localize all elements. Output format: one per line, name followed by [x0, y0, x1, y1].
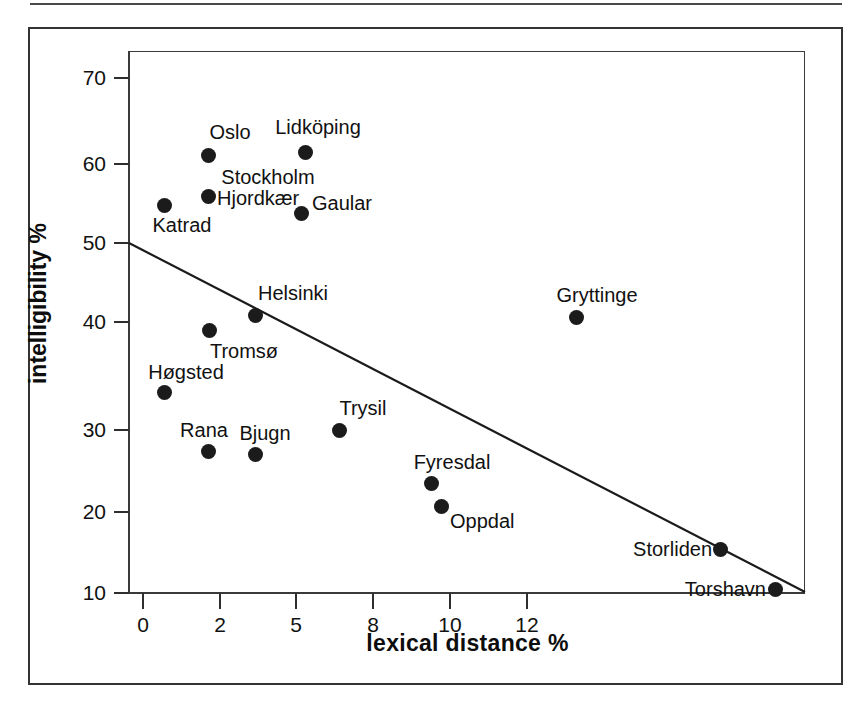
point-label-lidkoping: Lidköping	[275, 117, 361, 137]
data-point-dot	[434, 499, 449, 514]
point-label-rana: Rana	[180, 420, 228, 440]
point-label-katrad: Katrad	[153, 215, 212, 235]
y-tick-label: 50	[58, 231, 106, 255]
point-label-gaular: Gaular	[312, 193, 372, 213]
x-axis-ticks	[143, 593, 527, 609]
data-point-dot	[201, 444, 216, 459]
data-point-dot	[157, 198, 172, 213]
y-tick-label: 70	[58, 66, 106, 90]
point-label-hogsted: Høgsted	[148, 362, 224, 382]
point-label-fyresdal: Fyresdal	[414, 452, 491, 472]
y-tick-label: 30	[58, 418, 106, 442]
point-label-tromso: Tromsø	[210, 341, 278, 361]
data-point-dot	[569, 310, 584, 325]
point-label-stockholm: Stockholm	[221, 167, 314, 187]
y-tick-label: 10	[58, 581, 106, 605]
data-point-dot	[248, 308, 263, 323]
data-point-dot	[248, 447, 263, 462]
y-tick-label: 40	[58, 310, 106, 334]
point-label-gryttinge: Gryttinge	[556, 285, 637, 305]
chart-vector-layer	[0, 0, 865, 714]
x-axis-title-text: lexical distance %	[296, 630, 568, 657]
data-point-dot	[768, 582, 783, 597]
point-label-trysil: Trysil	[339, 398, 386, 418]
data-point-dot	[332, 423, 347, 438]
data-point-dot	[202, 323, 217, 338]
data-point-dot	[424, 476, 439, 491]
y-axis-ticks	[114, 78, 129, 593]
y-tick-label: 20	[58, 500, 106, 524]
data-point-dot	[201, 189, 216, 204]
data-point-dot	[713, 542, 728, 557]
x-axis-title: lexical distance %	[0, 630, 865, 657]
data-point-dot	[157, 385, 172, 400]
point-label-oppdal: Oppdal	[450, 511, 515, 531]
y-axis-title: intelligibility %	[25, 204, 52, 404]
point-label-torshavn: Torshavn	[685, 579, 766, 599]
point-label-hjordkaer: Hjordkær	[217, 188, 299, 208]
point-label-storliden: Storliden	[633, 539, 712, 559]
data-point-dot	[201, 148, 216, 163]
point-label-bjugn: Bjugn	[239, 423, 290, 443]
y-tick-label: 60	[58, 152, 106, 176]
data-point-dot	[298, 145, 313, 160]
point-label-helsinki: Helsinki	[258, 283, 328, 303]
point-label-oslo: Oslo	[209, 122, 250, 142]
